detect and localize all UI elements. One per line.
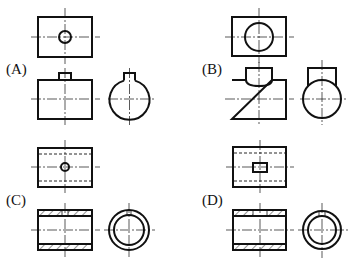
option-b[interactable]: (B) — [202, 8, 348, 125]
option-c-label: (C) — [6, 192, 26, 209]
option-b-front-view — [225, 62, 294, 125]
option-c-side-view — [104, 203, 155, 257]
option-d[interactable]: (D) — [202, 140, 348, 258]
option-d-side-view — [298, 203, 348, 258]
projection-drawing: (A) (B) — [0, 0, 353, 265]
option-c[interactable]: (C) — [6, 140, 155, 257]
option-b-side-view — [300, 60, 348, 125]
option-d-front-view — [226, 203, 294, 257]
option-d-label: (D) — [202, 192, 223, 209]
option-a-label: (A) — [6, 61, 27, 78]
option-b-label: (B) — [202, 61, 222, 78]
option-c-top-view — [31, 140, 100, 193]
option-d-top-view — [226, 140, 294, 193]
option-c-front-view — [31, 203, 100, 257]
option-a-side-view — [108, 68, 156, 125]
option-a-top-view — [31, 8, 100, 64]
option-a-front-view — [31, 68, 100, 125]
option-b-top-view — [225, 8, 294, 63]
option-a[interactable]: (A) — [6, 8, 156, 125]
